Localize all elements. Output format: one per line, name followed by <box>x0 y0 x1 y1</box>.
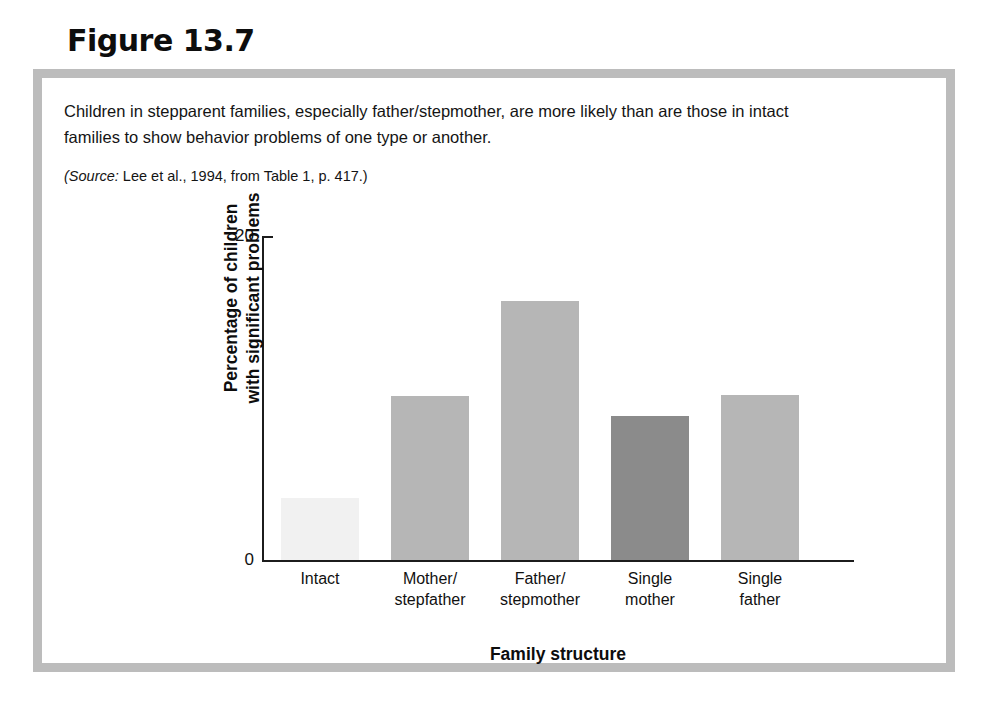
x-axis-label-5: Singlefather <box>700 568 820 610</box>
y-axis-title-line-1: Percentage of children <box>220 173 242 423</box>
y-axis-tick-label-0: 0 <box>224 550 254 570</box>
bar-intact <box>281 498 359 560</box>
bar-single-father <box>721 395 799 560</box>
x-axis-title: Family structure <box>262 644 854 665</box>
y-axis-title-line-2: with significant problems <box>242 173 264 423</box>
bar-mother-stepfather <box>391 396 469 560</box>
x-axis-label-4: Singlemother <box>590 568 710 610</box>
x-axis-label-4-line-2: mother <box>590 589 710 610</box>
x-axis-label-2: Mother/stepfather <box>370 568 490 610</box>
bar-series <box>262 236 854 560</box>
y-axis-title: Percentage of children with significant … <box>220 173 264 423</box>
x-axis-label-2-line-2: stepfather <box>370 589 490 610</box>
bar-single-mother <box>611 416 689 560</box>
bar-chart: 20 0 Percentage of children with signifi… <box>42 78 946 663</box>
x-axis-line <box>262 560 854 562</box>
x-axis-label-2-line-1: Mother/ <box>370 568 490 589</box>
figure-number-heading: Figure 13.7 <box>67 26 255 56</box>
x-axis-label-3: Father/stepmother <box>480 568 600 610</box>
x-axis-label-1: Intact <box>260 568 380 589</box>
figure-inner-panel: Children in stepparent families, especia… <box>42 78 946 663</box>
x-axis-label-5-line-2: father <box>700 589 820 610</box>
figure-frame: Children in stepparent families, especia… <box>33 69 955 672</box>
x-axis-label-3-line-1: Father/ <box>480 568 600 589</box>
bar-father-stepmother <box>501 301 579 560</box>
x-axis-tick-labels: IntactMother/stepfatherFather/stepmother… <box>262 568 854 628</box>
x-axis-label-4-line-1: Single <box>590 568 710 589</box>
x-axis-label-1-line-1: Intact <box>260 568 380 589</box>
plot-area: 20 0 Percentage of children with signifi… <box>262 236 842 560</box>
x-axis-label-5-line-1: Single <box>700 568 820 589</box>
x-axis-label-3-line-2: stepmother <box>480 589 600 610</box>
